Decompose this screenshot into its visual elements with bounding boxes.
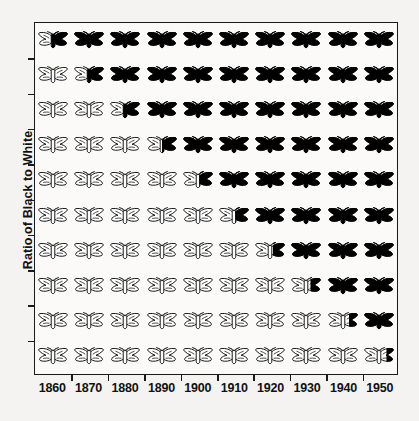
moth-icon [291,311,321,332]
moth-cell-r7-c9 [325,234,361,269]
moth-cell-r1-c9 [325,23,361,58]
moth-icon [110,206,140,227]
moth-cell-r8-c1 [35,269,71,304]
x-axis-tick-label: 1920 [252,381,288,395]
moth-cell-r9-c4 [144,304,180,339]
moth-icon [255,241,285,262]
moth-icon [219,170,249,191]
moth-cell-r2-c10 [361,58,397,93]
moth-icon [110,241,140,262]
moth-cell-r7-c8 [288,234,324,269]
moth-cell-r5-c5 [180,163,216,198]
moth-cell-r6-c8 [288,198,324,233]
x-axis-tick [71,374,73,381]
moth-cell-r9-c6 [216,304,252,339]
moth-icon [110,65,140,86]
moth-cell-r1-c3 [107,23,143,58]
moth-cell-r9-c8 [288,304,324,339]
moth-icon [291,206,321,227]
moth-icon [255,276,285,297]
x-axis-tick-label: 1940 [325,381,361,395]
moth-icon [183,65,213,86]
moth-icon [38,65,68,86]
moth-cell-r2-c2 [71,58,107,93]
moth-icon [328,206,358,227]
moth-icon [147,100,177,121]
x-axis-tick-label: 1860 [34,381,70,395]
moth-cell-r4-c7 [252,128,288,163]
moth-icon [147,206,177,227]
moth-cell-r10-c10 [361,339,397,374]
moth-cell-r5-c9 [325,163,361,198]
x-axis-tick [253,374,255,381]
moth-cell-r10-c3 [107,339,143,374]
moth-cell-r1-c10 [361,23,397,58]
moth-icon [291,30,321,51]
moth-icon [219,30,249,51]
moth-icon [110,30,140,51]
moth-icon [219,276,249,297]
moth-icon [364,311,394,332]
moth-cell-r8-c9 [325,269,361,304]
moth-icon [183,276,213,297]
x-axis-tick-label: 1910 [216,381,252,395]
y-axis-tick [28,58,35,60]
moth-icon [291,65,321,86]
moth-icon [147,30,177,51]
moth-cell-r8-c8 [288,269,324,304]
moth-icon [38,30,68,51]
moth-icon [328,276,358,297]
moth-icon [364,100,394,121]
moth-cell-r5-c4 [144,163,180,198]
x-axis-tick [363,374,365,381]
moth-cell-r6-c2 [71,198,107,233]
moth-cell-r2-c1 [35,58,71,93]
moth-cell-r3-c1 [35,93,71,128]
moth-icon [183,206,213,227]
moth-cell-r7-c3 [107,234,143,269]
y-axis-tick [28,341,35,343]
moth-cell-r5-c3 [107,163,143,198]
moth-cell-r6-c6 [216,198,252,233]
y-axis-tick [28,164,35,166]
moth-cell-r2-c8 [288,58,324,93]
moth-cell-r7-c7 [252,234,288,269]
moth-cell-r8-c4 [144,269,180,304]
moth-icon [183,100,213,121]
x-axis-tick [144,374,146,381]
moth-cell-r9-c3 [107,304,143,339]
moth-cell-r3-c9 [325,93,361,128]
moth-icon [183,170,213,191]
moth-cell-r1-c6 [216,23,252,58]
moth-icon [38,276,68,297]
moth-icon [364,346,394,367]
moth-icon [364,135,394,156]
x-axis-tick [326,374,328,381]
moth-cell-r2-c3 [107,58,143,93]
moth-cell-r8-c5 [180,269,216,304]
moth-icon [74,100,104,121]
moth-cell-r2-c5 [180,58,216,93]
moth-cell-r10-c5 [180,339,216,374]
moth-icon [110,311,140,332]
moth-cell-r6-c10 [361,198,397,233]
moth-cell-r8-c2 [71,269,107,304]
moth-cell-r4-c4 [144,128,180,163]
moth-cell-r5-c6 [216,163,252,198]
x-axis-tick [290,374,292,381]
moth-icon [219,346,249,367]
moth-cell-r8-c3 [107,269,143,304]
moth-cell-r10-c6 [216,339,252,374]
moth-icon [110,100,140,121]
moth-cell-r10-c9 [325,339,361,374]
moth-icon [291,346,321,367]
moth-icon [219,65,249,86]
moth-cell-r4-c1 [35,128,71,163]
moth-cell-r1-c8 [288,23,324,58]
x-axis-tick-labels: 1860187018801890190019101920193019401950 [34,381,398,395]
moth-cell-r9-c2 [71,304,107,339]
moth-icon [74,135,104,156]
moth-icon [74,65,104,86]
moth-icon [74,206,104,227]
y-axis-tick [28,200,35,202]
